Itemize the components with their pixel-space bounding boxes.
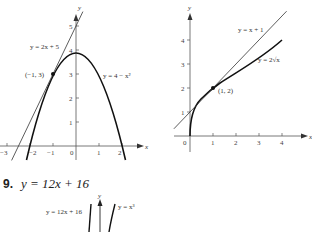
y-tick-label: 1: [181, 109, 185, 117]
y-tick-label: 2: [181, 85, 185, 93]
y-tick-label: 1: [69, 119, 73, 127]
curve-label: y = 2√x: [258, 56, 280, 64]
x-axis-label: x: [144, 143, 149, 151]
point-label: (1, 2): [218, 87, 234, 95]
tangent-point: [51, 72, 55, 76]
tangent-line: [174, 11, 287, 129]
y-axis-label: y: [97, 192, 102, 200]
x-tick-label: −3: [0, 149, 8, 157]
graph-parabola: y x −3 −2 −1 0 1 2 1 2 3 4 5: [0, 4, 149, 160]
problem-equation: y = 12x + 16: [21, 176, 89, 191]
x-axis-arrow-icon: [137, 144, 144, 149]
curve-label: y = x³: [118, 203, 135, 211]
line-label: y = 12x + 16: [46, 208, 82, 216]
x-tick-label: 1: [97, 149, 101, 157]
sqrt-curve: [190, 40, 282, 136]
y-tick-label: 4: [181, 37, 185, 45]
y-axis-label: y: [187, 4, 192, 12]
y-ticks: [187, 40, 190, 112]
y-axis-arrow-icon: [188, 13, 193, 20]
x-ticks: [213, 133, 282, 136]
y-axis-arrow-icon: [98, 199, 103, 206]
y-tick-label: 5: [69, 23, 73, 31]
x-tick-label: −2: [29, 149, 37, 157]
graph-cubic: y y = 12x + 16 y = x³: [46, 192, 135, 232]
x-tick-label: 4: [280, 139, 284, 147]
x-tick-label: 0: [183, 139, 187, 147]
x-tick-label: −1: [47, 149, 55, 157]
y-tick-label: 2: [69, 95, 73, 103]
x-tick-label: 1: [211, 139, 215, 147]
tangent-point: [211, 86, 215, 90]
x-ticks: [7, 143, 122, 146]
x-axis-arrow-icon: [301, 134, 308, 139]
x-axis-label: x: [308, 133, 312, 141]
problem-heading: 9.y = 12x + 16: [3, 176, 89, 192]
x-tick-label: 2: [118, 149, 122, 157]
figure-canvas: y x −3 −2 −1 0 1 2 1 2 3 4 5: [0, 0, 312, 232]
y-axis-label: y: [77, 4, 82, 12]
x-tick-label: 3: [257, 139, 261, 147]
y-tick-label: 3: [69, 71, 73, 79]
cubic-curve: [109, 204, 115, 232]
x-tick-label: 0: [70, 149, 74, 157]
y-axis-arrow-icon: [74, 14, 79, 21]
tangent-label: y = x + 1: [238, 26, 264, 34]
point-label: (−1, 3): [25, 71, 45, 79]
graph-sqrt: y x 0 1 2 3 4 1 2 3 4 y = x + 1 y = 2√x …: [174, 4, 312, 152]
tangent-line: [12, 12, 83, 161]
curve-label: y = 4 − x²: [103, 72, 131, 80]
line-12x16: [89, 204, 91, 232]
tangent-label: y = 2x + 5: [30, 43, 59, 51]
problem-number: 9.: [3, 177, 13, 191]
x-tick-label: 2: [234, 139, 238, 147]
y-tick-label: 3: [181, 61, 185, 69]
y-ticks: [76, 26, 79, 122]
